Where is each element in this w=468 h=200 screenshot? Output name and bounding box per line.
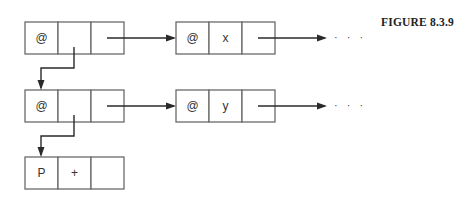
arrowhead-icon [317,35,327,42]
list-node: P+ [25,157,124,189]
node-cell: + [58,157,91,189]
node-cell [91,157,124,189]
cell-label: @ [186,31,198,45]
cell-label: P [37,166,45,180]
node-cell: P [25,157,58,189]
node-cell: @ [176,90,209,122]
cell-label: @ [35,99,47,113]
figure-caption: FIGURE 8.3.9 [381,16,454,28]
node-cell: @ [25,22,58,54]
continuation-ellipsis: · · · [334,31,366,43]
cell-label: @ [35,31,47,45]
cell-label: y [223,99,229,113]
arrowhead-icon [317,103,327,110]
arrowhead-icon [38,147,45,157]
cell-label: x [223,31,229,45]
arrowhead-icon [166,103,176,110]
node-cell: x [209,22,242,54]
node-cell: @ [176,22,209,54]
node-cell: y [209,90,242,122]
node-cell: @ [25,90,58,122]
cell-label: + [71,166,78,180]
linked-list-diagram: @@x@@yP+· · ·· · · [0,0,468,200]
continuation-ellipsis: · · · [334,99,366,111]
arrowhead-icon [38,80,45,90]
arrowhead-icon [166,35,176,42]
cell-label: @ [186,99,198,113]
